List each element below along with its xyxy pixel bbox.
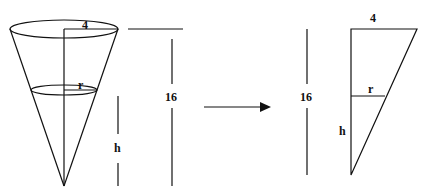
cone-left-side [10, 29, 64, 186]
cone-top-radius-label: 4 [82, 18, 88, 32]
cone-water-height-label: h [114, 141, 121, 155]
triangle-figure [307, 29, 417, 175]
triangle-height-label: 16 [300, 90, 312, 104]
cone-similar-triangles-diagram: 4 r 16 h 4 16 r h [0, 0, 426, 195]
triangle-top-label: 4 [370, 11, 376, 25]
cone-right-side [64, 29, 118, 186]
cone-figure [10, 20, 183, 186]
cone-height-label: 16 [165, 90, 177, 104]
triangle-water-radius-label: r [368, 82, 374, 96]
triangle-water-height-label: h [339, 124, 346, 138]
right-triangle [351, 29, 417, 175]
cone-water-radius-label: r [78, 78, 84, 92]
arrow-right-icon [204, 102, 271, 112]
